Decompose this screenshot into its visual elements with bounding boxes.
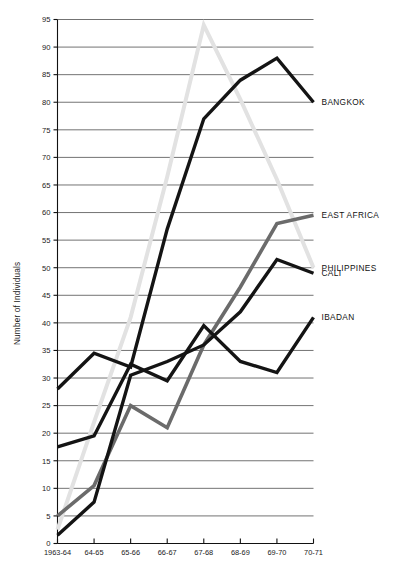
series-label-east-africa: EAST AFRICA bbox=[322, 210, 380, 220]
y-tick-label: 85 bbox=[42, 70, 50, 79]
y-tick-label: 20 bbox=[42, 429, 50, 438]
y-tick-label: 80 bbox=[42, 98, 50, 107]
x-tick-label: 68-69 bbox=[231, 548, 250, 557]
y-tick-label: 15 bbox=[42, 457, 50, 466]
y-tick-label: 25 bbox=[42, 401, 50, 410]
data-series-group bbox=[58, 25, 314, 535]
y-tick-label: 90 bbox=[42, 43, 50, 52]
y-tick-label: 70 bbox=[42, 153, 50, 162]
y-axis-title-text: Number of Individuals bbox=[13, 262, 22, 345]
y-tick-label: 30 bbox=[42, 374, 50, 383]
y-tick-label: 35 bbox=[42, 346, 50, 355]
y-tick-label: 50 bbox=[42, 264, 50, 273]
y-tick-label: 10 bbox=[42, 484, 50, 493]
line-chart: Number of Individuals 051015202530354045… bbox=[0, 0, 399, 574]
y-tick-label: 55 bbox=[42, 236, 50, 245]
y-tick-label: 60 bbox=[42, 208, 50, 217]
series-label-ibadan: IBADAN bbox=[322, 312, 355, 322]
y-tick-label: 75 bbox=[42, 126, 50, 135]
x-tick-label: 69-70 bbox=[267, 548, 286, 557]
series-label-cali: CALI bbox=[322, 268, 342, 278]
series-line-cali bbox=[58, 259, 314, 535]
y-tick-label: 5 bbox=[46, 512, 50, 521]
x-axis-ticks: 1963-6464-6565-6666-6767-6868-6969-7070-… bbox=[44, 539, 323, 557]
x-tick-label: 65-66 bbox=[121, 548, 140, 557]
y-tick-label: 45 bbox=[42, 291, 50, 300]
y-axis-title: Number of Individuals bbox=[13, 262, 22, 345]
series-line-philippines bbox=[58, 25, 314, 530]
series-labels: BANGKOKPHILIPPINESEAST AFRICACALIIBADAN bbox=[322, 97, 380, 322]
x-tick-label: 67-68 bbox=[194, 548, 213, 557]
y-axis-ticks: 05101520253035404550556065707580859095 bbox=[42, 15, 57, 548]
x-tick-label: 64-65 bbox=[85, 548, 104, 557]
chart-container: Number of Individuals 051015202530354045… bbox=[0, 0, 399, 574]
y-tick-label: 65 bbox=[42, 181, 50, 190]
x-tick-label: 70-71 bbox=[304, 548, 323, 557]
series-label-bangkok: BANGKOK bbox=[322, 97, 366, 107]
x-tick-label: 1963-64 bbox=[44, 548, 71, 557]
x-tick-label: 66-67 bbox=[158, 548, 177, 557]
y-tick-label: 95 bbox=[42, 15, 50, 24]
y-tick-label: 40 bbox=[42, 319, 50, 328]
